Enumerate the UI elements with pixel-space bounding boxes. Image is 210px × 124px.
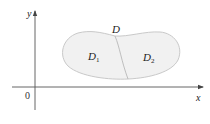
origin-label: 0 bbox=[25, 90, 30, 101]
x-axis-label: x bbox=[195, 92, 201, 103]
subregion-d2-letter: D bbox=[142, 51, 151, 63]
y-axis-label: y bbox=[26, 8, 32, 19]
diagram-canvas: y x 0 D D1 D2 bbox=[0, 0, 210, 124]
subregion-d2-subscript: 2 bbox=[151, 57, 155, 65]
subregion-d1-subscript: 1 bbox=[96, 56, 100, 64]
region-d-label: D bbox=[111, 23, 120, 35]
subregion-d1-letter: D bbox=[87, 50, 96, 62]
